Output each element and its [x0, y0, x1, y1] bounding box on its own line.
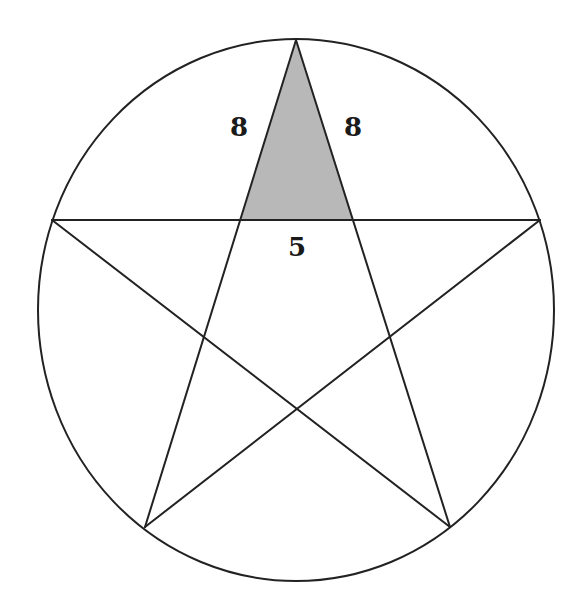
star-edge-right-to-bottom-left [145, 220, 540, 527]
shaded-triangle [241, 40, 353, 220]
label-base: 5 [288, 232, 306, 262]
star-edge-top-to-bottom-right [296, 40, 450, 527]
label-right-side: 8 [344, 112, 362, 142]
label-left-side: 8 [230, 112, 248, 142]
star-edge-top-to-bottom-left [145, 40, 296, 527]
star-edge-left-to-bottom-right [52, 220, 450, 527]
pentagram-diagram: 8 8 5 [0, 0, 585, 608]
